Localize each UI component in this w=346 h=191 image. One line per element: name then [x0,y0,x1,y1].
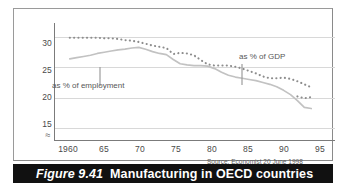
figure-container: 30 25 20 15 ≈ as % of employment [0,0,346,191]
x-tick-70: 70 [135,145,145,154]
y-tick-30: 30 [42,39,52,48]
x-axis-labels: 1960 65 70 75 80 85 90 95 [54,145,335,159]
x-tick-85: 85 [243,145,253,154]
y-tick-25: 25 [42,66,52,75]
x-tick-65: 65 [99,145,109,154]
x-tick-80: 80 [207,145,217,154]
annotation-employment: as % of employment [52,82,124,90]
y-axis-break-icon: ≈ [45,131,50,140]
y-tick-20: 20 [42,93,52,102]
figure-title: Manufacturing in OECD countries [110,167,313,181]
figure-caption-bar: Figure 9.41 Manufacturing in OECD countr… [13,164,333,183]
x-tick-1960: 1960 [58,145,78,154]
x-tick-90: 90 [279,145,289,154]
chart-frame: 30 25 20 15 ≈ as % of employment [13,8,333,161]
annotation-gdp: as % of GDP [239,53,285,61]
series-line-as-of-employment [70,38,311,88]
x-tick-95: 95 [315,145,325,154]
series-line-tail [297,96,311,98]
y-tick-15: 15 [42,120,52,129]
series-layer [70,38,311,109]
x-tick-75: 75 [171,145,181,154]
y-axis-labels: 30 25 20 15 ≈ [28,23,52,141]
figure-number: Figure 9.41 [36,167,103,181]
